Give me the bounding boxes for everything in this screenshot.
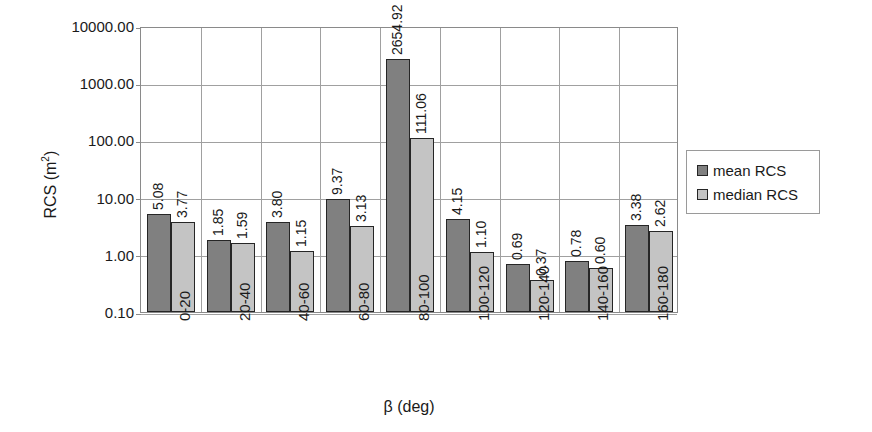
y-tick-mark — [136, 28, 141, 29]
bar-value-label: 4.15 — [450, 188, 464, 215]
bar-value-label: 2654.92 — [390, 4, 404, 55]
bar-mean-rcs[interactable] — [386, 59, 410, 312]
bar-value-label: 1.85 — [211, 208, 225, 235]
x-tick-label: 40-60 — [296, 283, 311, 321]
bar-mean-rcs[interactable] — [147, 214, 171, 312]
y-tick-label: 100.00 — [14, 133, 134, 148]
bar-group: 9.373.13 — [326, 28, 374, 312]
legend-label-mean: mean RCS — [713, 162, 786, 179]
y-tick-mark — [136, 85, 141, 86]
y-tick-mark — [136, 256, 141, 257]
rcs-bar-chart: RCS (m2) 10000.001000.00100.0010.001.000… — [0, 0, 872, 432]
bar-value-label: 1.59 — [235, 212, 249, 239]
bar-group: 5.083.77 — [147, 28, 195, 312]
bar-value-label: 0.78 — [569, 230, 583, 257]
bar-value-label: 9.37 — [330, 168, 344, 195]
y-tick-mark — [136, 142, 141, 143]
category-separator — [500, 28, 501, 312]
bar-value-label: 3.38 — [629, 193, 643, 220]
category-separator — [261, 28, 262, 312]
bar-value-label: 3.13 — [354, 195, 368, 222]
legend-item-mean[interactable]: mean RCS — [697, 158, 819, 182]
y-axis-tick-labels: 10000.001000.00100.0010.001.000.10 — [8, 0, 134, 432]
category-separator — [380, 28, 381, 312]
category-separator — [559, 28, 560, 312]
bar-value-label: 3.80 — [270, 190, 284, 217]
y-tick-label: 1.00 — [14, 248, 134, 263]
category-separator — [320, 28, 321, 312]
y-tick-label: 10000.00 — [14, 19, 134, 34]
x-tick-label: 100-120 — [476, 266, 491, 321]
category-separator — [440, 28, 441, 312]
bar-value-label: 0.69 — [510, 233, 524, 260]
legend-swatch-median-icon — [697, 189, 708, 200]
category-separator — [619, 28, 620, 312]
bar-group: 3.801.15 — [266, 28, 314, 312]
x-tick-label: 80-100 — [416, 274, 431, 321]
x-tick-label: 140-160 — [595, 266, 610, 321]
x-tick-label: 0-20 — [177, 291, 192, 321]
bar-mean-rcs[interactable] — [565, 261, 589, 312]
bar-value-label: 5.08 — [151, 183, 165, 210]
bar-mean-rcs[interactable] — [506, 264, 530, 312]
y-tick-mark — [136, 199, 141, 200]
y-tick-label: 10.00 — [14, 191, 134, 206]
x-tick-label: 60-80 — [356, 283, 371, 321]
bar-group: 2654.92111.06 — [386, 28, 434, 312]
bar-value-label: 1.10 — [474, 221, 488, 248]
legend-swatch-mean-icon — [697, 165, 708, 176]
x-tick-label: 160-180 — [655, 266, 670, 321]
bar-value-label: 1.15 — [294, 220, 308, 247]
legend-label-median: median RCS — [713, 186, 798, 203]
bar-value-label: 111.06 — [414, 93, 428, 134]
bar-mean-rcs[interactable] — [446, 219, 470, 312]
y-tick-mark — [136, 314, 141, 315]
bar-group: 1.851.59 — [207, 28, 255, 312]
y-tick-label: 1000.00 — [14, 76, 134, 91]
bar-value-label: 3.77 — [175, 191, 189, 218]
bar-mean-rcs[interactable] — [625, 225, 649, 312]
x-axis-title: β (deg) — [140, 398, 678, 416]
category-separator — [201, 28, 202, 312]
y-tick-label: 0.10 — [14, 305, 134, 320]
bar-value-label: 0.60 — [593, 236, 607, 263]
bar-value-label: 2.62 — [653, 200, 667, 227]
legend-item-median[interactable]: median RCS — [697, 182, 819, 206]
chart-legend: mean RCS median RCS — [686, 150, 820, 214]
x-tick-label: 120-140 — [536, 266, 551, 321]
bar-mean-rcs[interactable] — [266, 222, 290, 312]
bar-mean-rcs[interactable] — [326, 199, 350, 312]
bar-mean-rcs[interactable] — [207, 240, 231, 312]
x-tick-label: 20-40 — [237, 283, 252, 321]
